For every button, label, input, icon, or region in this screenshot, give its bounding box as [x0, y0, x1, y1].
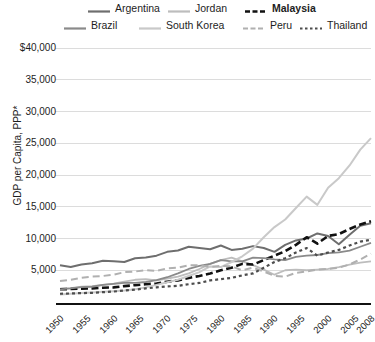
chart-svg: [0, 0, 375, 342]
series-line-south-korea: [60, 138, 371, 294]
y-axis-tick-20000: 20,000: [0, 170, 56, 180]
plot-area: [0, 0, 375, 342]
y-axis-tick-25000: 25,000: [0, 138, 56, 148]
y-axis-tick-15000: 15,000: [0, 202, 56, 212]
y-axis-tick-30000: 30,000: [0, 107, 56, 117]
y-axis-title: GDP per Capita, PPP*: [12, 91, 23, 221]
y-axis-tick-10000: 10,000: [0, 234, 56, 244]
y-axis-tick-40000: $40,000: [0, 43, 56, 53]
y-axis-tick-5000: 5,000: [0, 265, 56, 275]
series-line-argentina: [60, 223, 371, 267]
series-line-peru: [60, 254, 371, 281]
gdp-per-capita-line-chart: Argentina Jordan Malaysia Brazil South K…: [0, 0, 375, 342]
y-axis-tick-35000: 35,000: [0, 75, 56, 85]
